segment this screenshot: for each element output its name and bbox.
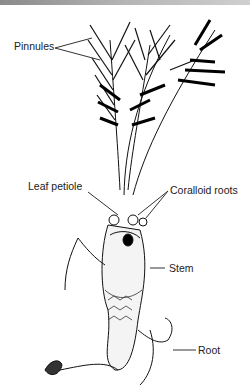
label-leaf-petiole: Leaf petiole (28, 180, 82, 192)
label-coralloid-roots: Coralloid roots (170, 184, 238, 196)
label-root: Root (198, 344, 220, 356)
label-pinnules: Pinnules (14, 40, 54, 52)
label-stem: Stem (169, 262, 194, 274)
